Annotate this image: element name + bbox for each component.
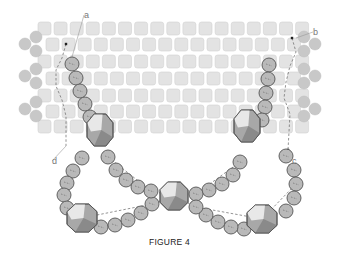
beading-diagram: abcd FIGURE 4 (0, 0, 339, 258)
cylinder-bead (207, 105, 220, 118)
cylinder-bead (62, 105, 75, 118)
point-label-d: d (52, 156, 57, 166)
cylinder-bead (175, 105, 188, 118)
cylinder-bead (231, 22, 244, 35)
cylinder-bead (86, 55, 99, 68)
cylinder-bead (255, 38, 268, 51)
cylinder-bead (247, 55, 260, 68)
cylinder-bead (167, 89, 180, 102)
cylinder-bead (167, 22, 180, 35)
cylinder-bead (271, 38, 284, 51)
cylinder-bead (110, 38, 123, 51)
cylinder-bead (191, 105, 204, 118)
cylinder-bead (94, 72, 107, 85)
cylinder-bead (175, 38, 188, 51)
cylinder-bead (231, 89, 244, 102)
edge-picot-bead (309, 70, 321, 82)
cylinder-bead (159, 105, 172, 118)
edge-picot-bead (30, 63, 42, 75)
cylinder-bead (247, 89, 260, 102)
cylinder-bead (231, 55, 244, 68)
figure-caption: FIGURE 4 (0, 237, 339, 247)
beadwork-illustration: abcd (0, 0, 339, 258)
cylinder-bead (127, 72, 140, 85)
cylinder-bead (223, 72, 236, 85)
cylinder-bead (223, 105, 236, 118)
cylinder-bead (46, 72, 59, 85)
point-label-b: b (313, 27, 318, 37)
cylinder-bead (280, 22, 293, 35)
edge-picot-bead (30, 31, 42, 43)
cylinder-bead (38, 120, 51, 133)
cylinder-bead (167, 55, 180, 68)
cylinder-bead (207, 38, 220, 51)
cylinder-bead (78, 38, 91, 51)
cylinder-bead (102, 55, 115, 68)
cylinder-bead (183, 55, 196, 68)
cylinder-bead (223, 38, 236, 51)
cylinder-bead (135, 89, 148, 102)
cylinder-bead (183, 22, 196, 35)
cylinder-bead (119, 55, 132, 68)
edge-picot-bead (19, 38, 31, 50)
cylinder-bead (102, 89, 115, 102)
edge-picot-bead (19, 70, 31, 82)
cylinder-bead (167, 120, 180, 133)
cylinder-bead (183, 89, 196, 102)
cylinder-bead (119, 22, 132, 35)
cylinder-bead (191, 38, 204, 51)
point-label-a: a (84, 10, 89, 20)
edge-picot-bead (19, 103, 31, 115)
cylinder-bead (151, 89, 164, 102)
cylinder-bead (119, 89, 132, 102)
edge-picot-bead (309, 103, 321, 115)
edge-picot-bead (309, 38, 321, 50)
cylinder-bead (175, 72, 188, 85)
cylinder-bead (46, 38, 59, 51)
thread-end-marker (291, 37, 293, 39)
cylinder-bead (151, 22, 164, 35)
cylinder-bead (102, 22, 115, 35)
edge-picot-bead (30, 77, 42, 89)
cylinder-bead (110, 72, 123, 85)
cylinder-bead (263, 22, 276, 35)
cylinder-bead (135, 120, 148, 133)
cylinder-bead (239, 38, 252, 51)
cylinder-bead (151, 120, 164, 133)
cylinder-bead (215, 55, 228, 68)
cylinder-bead (70, 120, 83, 133)
cylinder-bead (135, 22, 148, 35)
cylinder-bead (207, 72, 220, 85)
cylinder-bead (271, 105, 284, 118)
cylinder-bead (143, 72, 156, 85)
cylinder-bead (280, 89, 293, 102)
cylinder-bead (127, 105, 140, 118)
edge-picot-bead (298, 31, 310, 43)
cylinder-bead (215, 89, 228, 102)
edge-picot-bead (298, 77, 310, 89)
cylinder-bead (86, 22, 99, 35)
edge-picot-bead (30, 45, 42, 57)
cylinder-bead (127, 38, 140, 51)
cylinder-bead (215, 120, 228, 133)
cylinder-bead (151, 55, 164, 68)
cylinder-bead (54, 22, 67, 35)
cylinder-bead (143, 105, 156, 118)
cylinder-bead (159, 38, 172, 51)
cylinder-bead (280, 120, 293, 133)
cylinder-bead (199, 120, 212, 133)
edge-picot-bead (30, 96, 42, 108)
cylinder-bead (135, 55, 148, 68)
cylinder-bead (199, 55, 212, 68)
cylinder-bead (119, 120, 132, 133)
cylinder-bead (215, 22, 228, 35)
cylinder-bead (62, 38, 75, 51)
cylinder-bead (54, 120, 67, 133)
cylinder-bead (280, 55, 293, 68)
edge-picot-bead (30, 110, 42, 122)
cylinder-bead (143, 38, 156, 51)
cylinder-bead (159, 72, 172, 85)
edge-picot-bead (298, 45, 310, 57)
edge-picot-bead (298, 63, 310, 75)
cylinder-bead (239, 72, 252, 85)
